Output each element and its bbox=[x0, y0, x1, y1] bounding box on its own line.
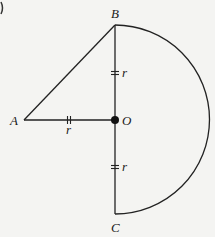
label-r-BO: r bbox=[122, 65, 128, 80]
geometry-diagram: B A O C r r r bbox=[0, 0, 215, 237]
label-C: C bbox=[111, 220, 120, 235]
cropped-mark bbox=[1, 2, 3, 14]
label-r-AO: r bbox=[66, 122, 72, 137]
label-r-OC: r bbox=[122, 159, 128, 174]
center-point-O bbox=[111, 116, 119, 124]
segment-AB bbox=[24, 25, 115, 120]
label-A: A bbox=[9, 113, 18, 128]
label-B: B bbox=[111, 6, 119, 21]
label-O: O bbox=[122, 113, 132, 128]
